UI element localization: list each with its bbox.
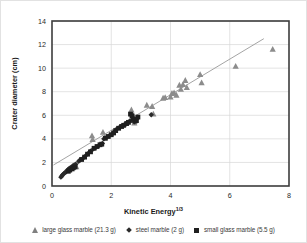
data-point-triangle [128,107,134,113]
data-point-triangle [144,102,150,108]
data-point-square [99,142,104,147]
y-axis-tick-label: 0 [42,182,46,191]
x-axis-tick-label: 4 [169,191,173,200]
x-axis-tick-label: 2 [109,191,113,200]
x-axis-tick-label: 6 [228,191,232,200]
legend-item-label: large glass marble (21.3 g) [42,226,116,233]
chart-legend: large glass marble (21.3 g) steel marble… [1,226,306,233]
y-axis-tick-label: 12 [38,40,46,49]
y-axis-tick-label: 10 [38,64,46,73]
y-axis-tick-label: 2 [42,158,46,167]
y-axis-tick-label: 6 [42,111,46,120]
legend-item-label: small glass marble (5.5 g) [204,226,275,233]
chart-figure: Crater diameter (cm) 0246810121402468 Ki… [0,0,307,243]
square-marker-icon [194,226,201,233]
data-point-square [136,115,141,120]
legend-item: steel marble (2 g) [126,226,184,233]
legend-item: large glass marble (21.3 g) [32,226,116,233]
data-point-triangle [149,103,155,109]
legend-item-label: steel marble (2 g) [136,226,184,233]
data-point-square [73,165,78,170]
legend-item: small glass marble (5.5 g) [194,226,275,233]
y-axis-tick-label: 4 [42,134,46,143]
data-point-square [126,120,131,125]
y-axis-tick-label: 14 [38,17,46,26]
data-point-triangle [270,46,276,52]
data-point-triangle [233,63,239,69]
x-axis-tick-label: 8 [287,191,291,200]
data-point-triangle [100,129,106,135]
x-axis-tick-label: 0 [50,191,54,200]
data-point-triangle [199,79,205,85]
data-point-triangle [182,77,188,83]
x-axis-title-exponent: 1/3 [176,206,183,212]
triangle-marker-icon [32,226,39,233]
data-point-triangle [197,71,203,77]
y-axis-tick-label: 8 [42,87,46,96]
trendline [53,39,263,165]
x-axis-title-text: Kinetic Energy [124,207,176,216]
diamond-marker-icon [126,226,133,233]
x-axis-title: Kinetic Energy1/3 [1,206,306,216]
